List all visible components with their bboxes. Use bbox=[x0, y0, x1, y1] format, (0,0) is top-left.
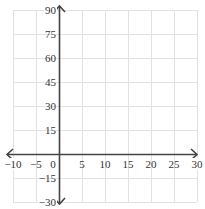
x-tick: 15 bbox=[123, 158, 135, 170]
x-tick: −10 bbox=[4, 158, 22, 170]
y-tick: 60 bbox=[45, 52, 57, 64]
x-tick: 20 bbox=[146, 158, 158, 170]
y-tick: −15 bbox=[39, 172, 57, 184]
x-tick-labels: −10 −5 0 5 10 15 20 25 30 bbox=[4, 158, 205, 170]
x-tick: −5 bbox=[30, 158, 42, 170]
y-tick: 45 bbox=[45, 76, 57, 88]
x-tick: 10 bbox=[100, 158, 112, 170]
x-tick: 0 bbox=[50, 158, 56, 170]
y-tick: 75 bbox=[45, 28, 57, 40]
y-tick: 90 bbox=[45, 4, 57, 16]
x-tick: 5 bbox=[79, 158, 85, 170]
y-tick: 30 bbox=[45, 100, 57, 112]
x-tick: 25 bbox=[169, 158, 181, 170]
y-tick: 15 bbox=[45, 124, 57, 136]
x-tick: 30 bbox=[192, 158, 204, 170]
y-tick: −30 bbox=[39, 196, 57, 208]
coordinate-plane: −10 −5 0 5 10 15 20 25 30 90 75 60 45 30… bbox=[0, 0, 205, 209]
axes bbox=[7, 6, 197, 204]
